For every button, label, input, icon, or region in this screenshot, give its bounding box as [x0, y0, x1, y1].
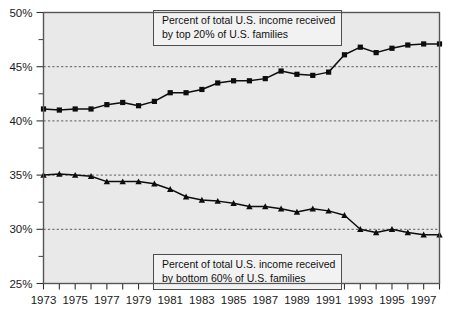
data-point-marker	[120, 100, 125, 105]
data-point-marker	[199, 87, 204, 92]
x-axis-label-1979: 1979	[126, 294, 152, 306]
y-axis-label-25: 25%	[9, 278, 32, 290]
bottom-annotation: Percent of total U.S. income received by…	[154, 255, 342, 290]
x-axis-label-1989: 1989	[284, 294, 310, 306]
data-point-marker	[231, 78, 236, 83]
data-point-marker	[215, 80, 220, 85]
x-axis-label-1985: 1985	[221, 294, 247, 306]
y-axis-label-30: 30%	[9, 223, 32, 235]
x-axis-label-1983: 1983	[189, 294, 215, 306]
x-axis-label-1997: 1997	[411, 294, 437, 306]
y-axis-label-50: 50%	[9, 7, 32, 19]
data-point-marker	[374, 50, 379, 55]
data-point-marker	[183, 90, 188, 95]
data-point-marker	[405, 42, 410, 47]
data-point-marker	[294, 72, 299, 77]
x-axis-label-1993: 1993	[348, 294, 374, 306]
top-annotation-line2: by top 20% of U.S. families	[162, 28, 288, 40]
data-point-marker	[279, 68, 284, 73]
y-axis-label-40: 40%	[9, 115, 32, 127]
data-point-marker	[168, 90, 173, 95]
bottom-annotation-line1: Percent of total U.S. income received	[162, 258, 335, 270]
data-point-marker	[389, 46, 394, 51]
x-axis-label-1995: 1995	[379, 294, 405, 306]
top-annotation-line1: Percent of total U.S. income received	[162, 14, 335, 26]
data-point-marker	[136, 103, 141, 108]
data-point-marker	[326, 70, 331, 75]
chart-container: 50%45%40%35%30%25% 197319751977197919811…	[0, 0, 453, 335]
x-axis-label-1981: 1981	[157, 294, 183, 306]
y-axis-label-35: 35%	[9, 169, 32, 181]
income-distribution-line-chart: 50%45%40%35%30%25% 197319751977197919811…	[0, 0, 453, 335]
x-axis-label-1987: 1987	[252, 294, 278, 306]
data-point-marker	[342, 52, 347, 57]
bottom-annotation-line2: by bottom 60% of U.S. families	[162, 272, 306, 284]
data-point-marker	[73, 106, 78, 111]
data-point-marker	[310, 73, 315, 78]
y-axis-label-45: 45%	[9, 61, 32, 73]
data-point-marker	[57, 107, 62, 112]
x-axis-label-1991: 1991	[316, 294, 342, 306]
data-point-marker	[152, 99, 157, 104]
data-point-marker	[247, 78, 252, 83]
data-point-marker	[421, 41, 426, 46]
plot-area	[44, 13, 440, 284]
top-annotation: Percent of total U.S. income received by…	[154, 11, 342, 46]
data-point-marker	[263, 76, 268, 81]
data-point-marker	[88, 106, 93, 111]
data-point-marker	[358, 45, 363, 50]
x-axis-label-1973: 1973	[31, 294, 57, 306]
x-axis-label-1975: 1975	[62, 294, 88, 306]
data-point-marker	[104, 102, 109, 107]
x-axis-label-1977: 1977	[94, 294, 120, 306]
